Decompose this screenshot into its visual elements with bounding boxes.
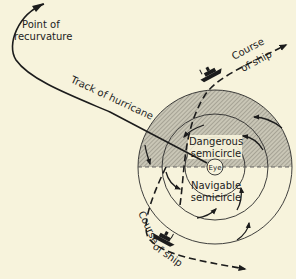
wind-arrow-icon xyxy=(237,223,249,240)
dangerous-label-1: Dangerous xyxy=(189,136,243,147)
wind-arrow-icon xyxy=(166,172,180,189)
navigable-label-2: semicircle xyxy=(191,192,241,203)
wind-arrow-icon xyxy=(197,209,216,218)
recurvature-label-2: recurvature xyxy=(14,31,72,42)
recurvature-label-1: Point of xyxy=(22,19,60,30)
recurvature-arrow-icon xyxy=(32,3,44,12)
hurricane-diagram: Point of recurvature Track of hurricane … xyxy=(0,0,296,279)
track-label: Track of hurricane xyxy=(68,73,155,121)
eye-label: Eye xyxy=(209,164,222,172)
navigable-label-1: Navigable xyxy=(191,180,241,191)
dangerous-label-2: semicircle xyxy=(191,148,241,159)
